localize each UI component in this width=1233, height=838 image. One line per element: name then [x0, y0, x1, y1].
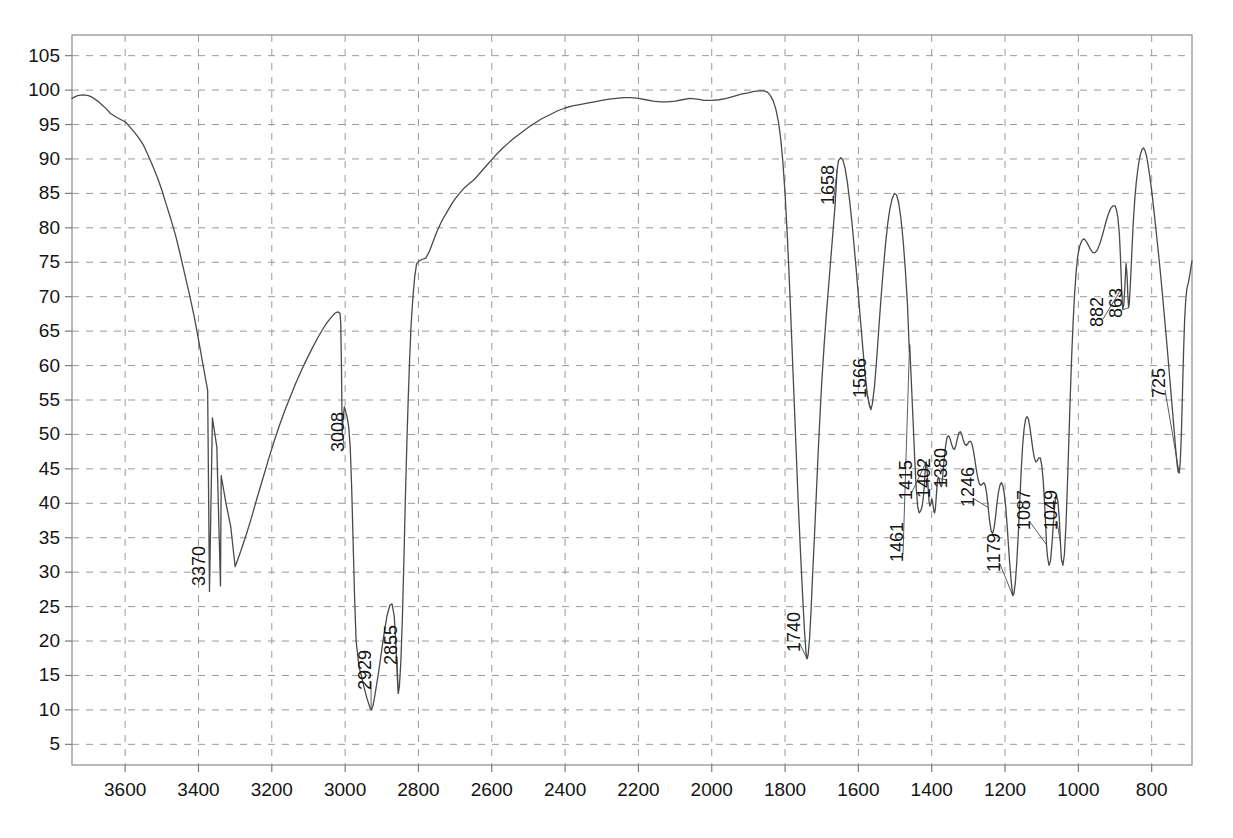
- x-axis-ticks: [125, 765, 1152, 772]
- peak-label: 1380: [931, 448, 951, 488]
- y-tick-label: 40: [39, 492, 60, 513]
- peak-label: 1740: [784, 612, 804, 652]
- y-tick-label: 25: [39, 596, 60, 617]
- peak-label: 1049: [1041, 490, 1061, 530]
- peak-label: 882: [1087, 297, 1107, 327]
- y-tick-label: 20: [39, 630, 60, 651]
- peak-label: 863: [1106, 288, 1126, 318]
- y-tick-label: 70: [39, 286, 60, 307]
- x-axis-tick-labels: 3600340032003000280026002400220020001800…: [104, 779, 1168, 800]
- y-tick-label: 55: [39, 389, 60, 410]
- x-tick-label: 2400: [544, 779, 586, 800]
- y-tick-label: 75: [39, 251, 60, 272]
- y-tick-label: 85: [39, 182, 60, 203]
- y-tick-label: 30: [39, 561, 60, 582]
- x-tick-label: 1000: [1057, 779, 1099, 800]
- y-axis-tick-labels: 1051009590858075706560555045403530252015…: [28, 45, 60, 755]
- x-tick-label: 1400: [911, 779, 953, 800]
- peak-label: 1658: [818, 165, 838, 205]
- y-tick-label: 90: [39, 148, 60, 169]
- x-tick-label: 2200: [617, 779, 659, 800]
- peak-label: 3008: [328, 412, 348, 452]
- x-tick-label: 1600: [837, 779, 879, 800]
- horizontal-gridlines: [72, 56, 1192, 745]
- y-tick-label: 35: [39, 527, 60, 548]
- y-tick-label: 45: [39, 458, 60, 479]
- x-tick-label: 800: [1136, 779, 1168, 800]
- y-tick-label: 10: [39, 699, 60, 720]
- x-tick-label: 3200: [251, 779, 293, 800]
- x-tick-label: 1800: [764, 779, 806, 800]
- x-tick-label: 2800: [397, 779, 439, 800]
- y-axis-ticks: [65, 56, 72, 745]
- peak-label: 1415: [896, 460, 916, 500]
- x-tick-label: 3000: [324, 779, 366, 800]
- ir-spectrum-figure: 1051009590858075706560555045403530252015…: [0, 0, 1233, 838]
- x-tick-label: 3400: [177, 779, 219, 800]
- y-tick-label: 50: [39, 423, 60, 444]
- peak-label: 1087: [1014, 490, 1034, 530]
- peak-label: 725: [1149, 368, 1169, 398]
- peak-label: 2929: [355, 650, 375, 690]
- x-tick-label: 1200: [984, 779, 1026, 800]
- y-tick-label: 100: [28, 79, 60, 100]
- peak-label: 1246: [958, 467, 978, 507]
- y-tick-label: 105: [28, 45, 60, 66]
- y-tick-label: 95: [39, 114, 60, 135]
- peak-label: 1461: [887, 522, 907, 562]
- peak-label: 1179: [984, 533, 1004, 572]
- y-tick-label: 15: [39, 664, 60, 685]
- peak-label: 3370: [189, 546, 209, 586]
- y-tick-label: 80: [39, 217, 60, 238]
- peak-label: 1566: [850, 358, 870, 398]
- y-tick-label: 5: [49, 733, 60, 754]
- peak-label: 2855: [381, 625, 401, 665]
- y-tick-label: 60: [39, 355, 60, 376]
- spectrum-chart: 1051009590858075706560555045403530252015…: [0, 0, 1233, 838]
- x-tick-label: 2000: [691, 779, 733, 800]
- x-tick-label: 3600: [104, 779, 146, 800]
- x-tick-label: 2600: [471, 779, 513, 800]
- y-tick-label: 65: [39, 320, 60, 341]
